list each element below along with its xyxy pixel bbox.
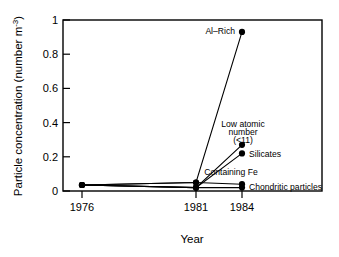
series-label-chondritic-particles: Chondritic particles (249, 182, 322, 192)
x-axis-ticks (82, 191, 242, 198)
y-tick-label: 0.2 (43, 151, 58, 163)
series-label-al-rich: Al–Rich (205, 26, 235, 36)
data-point (239, 185, 245, 191)
plot-frame (63, 20, 322, 191)
chart-figure: Particle concentration (number m-3) 0 0.… (0, 0, 339, 257)
x-tick-label: 1984 (230, 201, 254, 213)
y-axis-title: Particle concentration (number m-3) (11, 16, 24, 197)
svg-text:(<11): (<11) (233, 135, 253, 145)
x-tick-label: 1981 (184, 201, 208, 213)
x-axis-title: Year (180, 233, 203, 245)
data-point (79, 182, 85, 188)
y-tick-label: 1 (52, 14, 58, 26)
y-tick-label: 0.4 (43, 117, 58, 129)
y-tick-label: 0.8 (43, 48, 58, 60)
series-al-rich (79, 29, 245, 188)
data-point (193, 185, 199, 191)
series-label-silicates: Silicates (249, 149, 281, 159)
y-tick-label: 0.6 (43, 82, 58, 94)
series-label-containing-fe: Containing Fe (204, 167, 258, 177)
data-point (239, 29, 245, 35)
data-point (239, 150, 245, 156)
y-axis-ticks (63, 20, 70, 191)
x-tick-label: 1976 (70, 201, 94, 213)
particle-concentration-line-chart: Particle concentration (number m-3) 0 0.… (0, 0, 339, 257)
series-label-low-atomic-number: Low atomic number (<11) (221, 119, 265, 145)
y-tick-label: 0 (52, 185, 58, 197)
y-axis-tick-labels: 0 0.2 0.4 0.6 0.8 1 (43, 14, 58, 197)
x-axis-tick-labels: 1976 1981 1984 (70, 201, 254, 213)
